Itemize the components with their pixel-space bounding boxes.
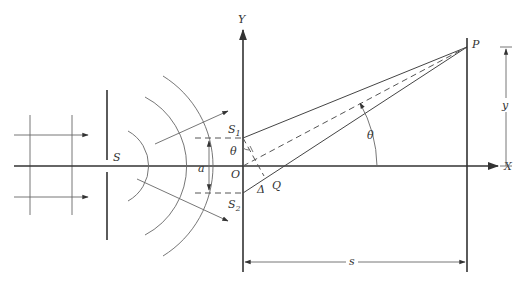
double-slit-diagram: X S Y a S1 S2 O θ Δ Q θ P xyxy=(0,0,527,288)
x-axis-label: X xyxy=(503,160,513,173)
foot-point-label: Q xyxy=(272,179,281,192)
slit1-label: S1 xyxy=(228,123,241,138)
ray-to-slit2-arrow-icon xyxy=(137,179,228,221)
center-ray-o-to-p xyxy=(243,47,467,166)
screen-distance-label: s xyxy=(349,255,355,268)
slit2-label: S2 xyxy=(228,198,241,213)
ray-to-slit1-arrow-icon xyxy=(155,111,228,144)
source-label: S xyxy=(113,151,121,164)
angle-right-label: θ xyxy=(367,129,374,142)
plane-wavefronts xyxy=(14,115,88,215)
perpendicular-s1-q xyxy=(243,138,264,176)
origin-label: O xyxy=(231,168,240,181)
screen-height-label: y xyxy=(501,99,509,112)
angle-arc-left xyxy=(243,148,249,150)
screen-point-label: P xyxy=(471,38,480,51)
path-difference-label: Δ xyxy=(256,183,265,196)
ray-slit1-to-p xyxy=(243,47,467,138)
ray-slit2-to-p xyxy=(243,47,467,193)
angle-left-label: θ xyxy=(230,145,237,158)
slit-separation-label: a xyxy=(198,162,205,175)
y-axis-label: Y xyxy=(238,13,247,26)
